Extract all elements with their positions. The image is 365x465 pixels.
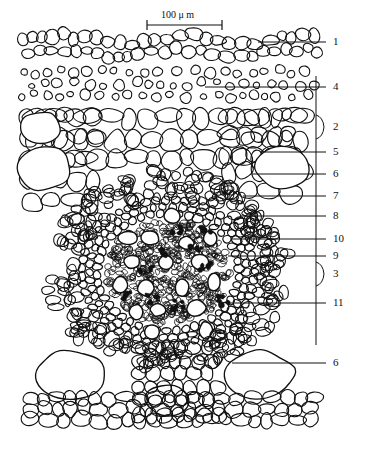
label-2: 2 <box>333 121 339 132</box>
cross-section-drawing <box>0 0 365 465</box>
label-5: 5 <box>333 146 339 157</box>
label-6: 6 <box>333 357 339 368</box>
label-7: 7 <box>333 190 339 201</box>
label-11: 11 <box>333 297 344 308</box>
label-9: 9 <box>333 250 339 261</box>
figure-canvas: 100 μ m 14256781093116 <box>0 0 365 465</box>
label-6: 6 <box>333 168 339 179</box>
label-10: 10 <box>333 233 344 244</box>
scale-bar-label: 100 μ m <box>161 9 194 20</box>
label-8: 8 <box>333 210 339 221</box>
label-3: 3 <box>333 268 339 279</box>
label-1: 1 <box>333 36 339 47</box>
label-4: 4 <box>333 81 339 92</box>
